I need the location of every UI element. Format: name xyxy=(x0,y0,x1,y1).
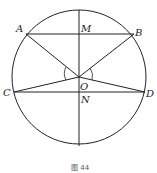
angle-mark-BOD xyxy=(90,68,93,80)
circle-chord-diagram: A B M O C D N 图 44 xyxy=(0,0,157,173)
figure-caption: 图 44 xyxy=(71,164,90,172)
radius-OB xyxy=(79,34,134,77)
label-C: C xyxy=(3,87,11,98)
radius-OC xyxy=(14,77,79,92)
label-M: M xyxy=(80,23,92,34)
angle-mark-AOC xyxy=(64,67,66,80)
radius-OD xyxy=(79,77,145,92)
label-B: B xyxy=(134,27,142,38)
label-A: A xyxy=(15,23,23,34)
label-N: N xyxy=(80,94,91,105)
label-O: O xyxy=(80,81,88,92)
radius-OA xyxy=(26,34,79,77)
label-D: D xyxy=(145,88,154,99)
